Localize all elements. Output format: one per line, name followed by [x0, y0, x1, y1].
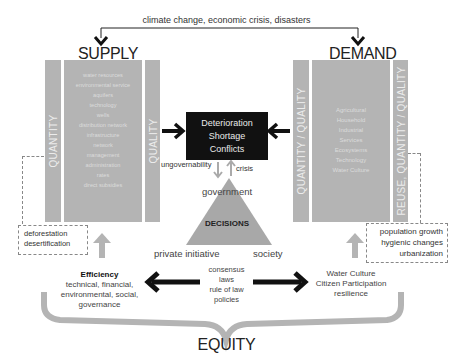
demand-item: Household [312, 115, 390, 125]
instrument-item: policies [200, 295, 253, 305]
demand-pressures-box: population growth hygienic changes urban… [366, 223, 448, 263]
culture-line: Citizen Participation [306, 279, 396, 289]
efficiency-block: Efficiency technical, financial, environ… [52, 270, 147, 310]
supply-item: management [64, 150, 142, 160]
supply-item: administration [64, 160, 142, 170]
supply-pressures-box: deforestation desertification [18, 225, 88, 255]
supply-item: environmental service [64, 80, 142, 90]
demand-pressure-connector-top [408, 153, 420, 154]
demand-up-arrow-head-icon [346, 233, 364, 243]
problem-item: Shortage [186, 130, 268, 143]
efficiency-line: governance [52, 300, 147, 310]
supply-down-chevron-icon [95, 37, 107, 44]
supply-pressure: deforestation [24, 229, 87, 239]
supply-item: direct subsidies [64, 180, 142, 190]
demand-reuse-label: REUSE, QUANTITY / QUALITY [395, 66, 406, 215]
demand-pressure: hygienic changes [367, 237, 443, 248]
demand-reuse-bar: REUSE, QUANTITY / QUALITY [393, 60, 408, 222]
demand-item: Ecosystems [312, 145, 390, 155]
instrument-item: rule of law [200, 285, 253, 295]
supply-quantity-bar: QUANTITY [45, 60, 61, 222]
society-label: society [253, 248, 283, 259]
supply-items-panel: water resources environmental service aq… [64, 60, 142, 222]
demand-quantity-quality-label: QUANTITY / QUALITY [296, 88, 307, 195]
equity-label: EQUITY [0, 336, 453, 354]
top-connector-line [101, 28, 358, 38]
demand-items-panel: Agricultural Household Industrial Servic… [312, 60, 390, 222]
supply-items-list: water resources environmental service aq… [64, 70, 142, 190]
supply-pressure: desertification [24, 239, 87, 249]
instrument-item: laws [200, 275, 253, 285]
demand-item: Water Culture [312, 165, 390, 175]
problems-box: Deterioration Shortage Conflicts [186, 112, 268, 160]
ungovernability-label: ungovernability [161, 160, 211, 169]
demand-pressure-connector [420, 153, 421, 223]
supply-item: aquifers [64, 90, 142, 100]
efficiency-title: Efficiency [52, 270, 147, 280]
governance-instruments: consensus laws rule of law policies [200, 265, 253, 305]
supply-pressure-connector [22, 156, 23, 224]
supply-item: distribution network [64, 120, 142, 130]
supply-item: wells [64, 110, 142, 120]
supply-item: water resources [64, 70, 142, 80]
supply-item: technology [64, 100, 142, 110]
external-pressures-label: climate change, economic crisis, disaste… [0, 15, 453, 25]
supply-quality-label: QUALITY [147, 119, 158, 164]
supply-item: rates [64, 170, 142, 180]
demand-quantity-quality-bar: QUANTITY / QUALITY [293, 60, 309, 222]
water-culture-block: Water Culture Citizen Participation resi… [306, 269, 396, 299]
instrument-item: consensus [200, 265, 253, 275]
government-label: government [202, 186, 252, 197]
demand-down-chevron-icon [352, 37, 364, 44]
crisis-label: crisis [236, 164, 253, 173]
supply-quantity-label: QUANTITY [48, 115, 59, 168]
demand-pressure: population growth [367, 226, 443, 237]
efficiency-line: technical, financial, [52, 280, 147, 290]
problem-item: Deterioration [186, 117, 268, 130]
supply-item: infrastructure [64, 130, 142, 140]
supply-up-arrow-head-icon [93, 233, 111, 243]
decisions-label: DECISIONS [205, 219, 249, 228]
demand-item: Industrial [312, 125, 390, 135]
supply-quality-bar: QUALITY [145, 60, 160, 222]
culture-line: Water Culture [306, 269, 396, 279]
demand-item: Services [312, 135, 390, 145]
efficiency-line: environmental, social, [52, 290, 147, 300]
problem-item: Conflicts [186, 143, 268, 156]
supply-pressure-connector-top [22, 156, 44, 157]
culture-line: resilience [306, 289, 396, 299]
demand-pressure: urbanization [367, 248, 443, 259]
demand-items-list: Agricultural Household Industrial Servic… [312, 105, 390, 175]
demand-item: Technology [312, 155, 390, 165]
supply-item: network [64, 140, 142, 150]
private-initiative-label: private initiative [154, 248, 219, 259]
demand-item: Agricultural [312, 105, 390, 115]
